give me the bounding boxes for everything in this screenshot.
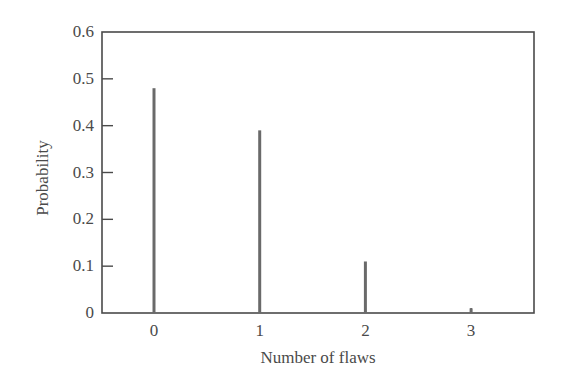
y-tick-label: 0.3: [73, 163, 94, 182]
x-tick-label: 1: [255, 321, 264, 340]
y-tick-label: 0.5: [73, 69, 94, 88]
y-tick-label: 0.6: [73, 22, 94, 41]
x-tick-label: 0: [150, 321, 159, 340]
probability-chart: 00.10.20.30.40.50.6 0123 Number of flaws…: [0, 0, 561, 384]
plot-frame: [102, 32, 534, 313]
y-axis: 00.10.20.30.40.50.6: [73, 22, 113, 322]
y-axis-label: Probability: [33, 140, 52, 216]
y-tick-label: 0: [86, 303, 95, 322]
x-axis-label: Number of flaws: [260, 348, 375, 367]
x-tick-label: 3: [467, 321, 476, 340]
plot-border: [102, 32, 534, 313]
stem-bars: [154, 88, 471, 313]
y-tick-label: 0.2: [73, 209, 94, 228]
y-tick-label: 0.4: [73, 116, 95, 135]
y-tick-label: 0.1: [73, 256, 94, 275]
x-tick-label: 2: [361, 321, 370, 340]
